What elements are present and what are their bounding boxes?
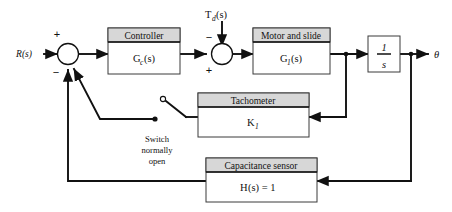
disturbance-label-tail: (s) (216, 9, 228, 21)
switch-note-line3: open (149, 156, 166, 166)
switch-open-terminal (160, 96, 165, 101)
motor-header-label: Motor and slide (261, 31, 321, 41)
integrator-numerator-label: 1 (381, 42, 386, 53)
output-signal-label: θ (434, 49, 439, 60)
controller-body-tail: (s) (144, 53, 156, 65)
junction2-plus-sign: + (206, 64, 212, 76)
switch-note-line1: Switch (145, 134, 170, 144)
tachometer-body-sub: 1 (255, 122, 259, 131)
tachometer-body-main: K (247, 117, 255, 128)
block-diagram: R(s) T d (s) + − − + Controller G c (s) … (0, 0, 452, 212)
junction2-minus-sign: − (206, 31, 212, 43)
switch-assembly[interactable] (160, 96, 186, 117)
sensor-body-label: H (s) = 1 (240, 182, 276, 194)
junction1-minus-sign: − (53, 66, 59, 78)
disturbance-signal-label: T d (s) (205, 9, 228, 23)
junction1-plus-sign: + (54, 28, 60, 40)
wire-switch-node-to-summing (74, 69, 158, 122)
disturbance-junction (212, 44, 233, 65)
switch-blade (166, 101, 186, 117)
input-error-junction (58, 44, 79, 65)
wire-motor-to-integrator (330, 52, 368, 57)
sensor-body-main: H (240, 182, 248, 193)
wire-integrator-to-output (400, 52, 428, 57)
integrator-denominator-label: s (382, 59, 386, 70)
input-signal-label: R(s) (15, 49, 32, 60)
tachometer-header-label: Tachometer (231, 96, 277, 106)
wire-sensor-to-summing (68, 70, 206, 181)
disturbance-label-main: T (205, 9, 212, 20)
diagram-canvas: R(s) T d (s) + − − + Controller G c (s) … (0, 0, 452, 212)
switch-annotation: Switch normally open (141, 134, 173, 166)
motor-body-tail: (s) (291, 53, 303, 65)
switch-note-line2: normally (141, 145, 173, 155)
controller-header-label: Controller (124, 31, 164, 41)
sensor-body-tail: (s) = 1 (248, 182, 276, 194)
sensor-header-label: Capacitance sensor (224, 161, 298, 171)
